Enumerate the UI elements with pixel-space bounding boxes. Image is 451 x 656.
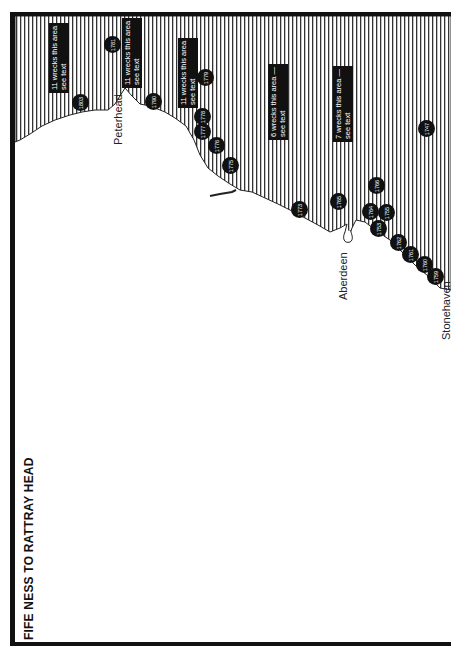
wreck-note: 7 wrecks this area —see text (333, 66, 353, 142)
wreck-marker: 1747 (418, 120, 435, 137)
wreck-note: 6 wrecks this area —see text (268, 64, 288, 140)
wreck-marker: 1781 (104, 36, 121, 53)
coastline-map (0, 0, 451, 656)
wreck-note: 11 wrecks this areasee text (49, 23, 69, 93)
sea-area (15, 16, 451, 290)
pier (210, 190, 236, 196)
wreck-marker: 1755 (378, 204, 395, 221)
wreck-marker: 1779 (197, 69, 214, 86)
place-stonehaven: Stonehaven (440, 281, 451, 340)
wreck-marker: 1776 (208, 137, 225, 154)
wreck-marker: 1790 (145, 93, 162, 110)
wreck-marker: 1773 (291, 201, 308, 218)
wreck-marker: 1753 (370, 220, 387, 237)
frame-bottom (10, 642, 451, 646)
wreck-marker: 1775 (222, 157, 239, 174)
wreck-marker: 1777 (194, 123, 211, 140)
place-peterhead: Peterhead (112, 94, 124, 145)
map-title: FIFE NESS TO RATTRAY HEAD (22, 457, 36, 640)
wreck-marker: 1764 (362, 203, 379, 220)
frame-left (10, 12, 15, 646)
wreck-marker: 1759 (427, 268, 444, 285)
wreck-marker: 1765 (330, 193, 347, 210)
wreck-marker: 1766 (368, 177, 385, 194)
place-aberdeen: Aberdeen (337, 252, 349, 300)
wreck-note: 11 wrecks this areasee text (122, 18, 142, 88)
wreck-marker: 1803 (72, 94, 89, 111)
frame-top (10, 12, 451, 16)
wreck-note: 11 wrecks this areasee text (178, 38, 198, 108)
